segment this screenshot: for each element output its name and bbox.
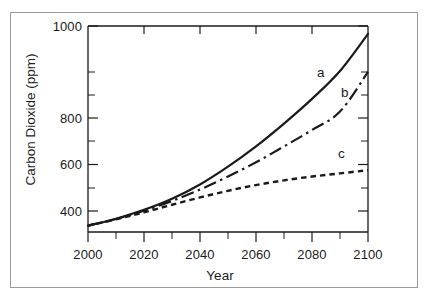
curve-b-label: b: [341, 85, 349, 100]
y-tick-label-1000: 1000: [42, 19, 82, 34]
curve-b-line: [88, 72, 368, 226]
x-axis-title: Year: [150, 268, 290, 283]
curve-a-line: [88, 34, 368, 226]
curve-a-label: a: [317, 65, 325, 80]
x-tick-label-2080: 2080: [290, 247, 334, 262]
x-tick-label-2000: 2000: [66, 247, 110, 262]
y-tick-label-800: 800: [42, 111, 82, 126]
x-tick-label-2060: 2060: [234, 247, 278, 262]
y-tick-label-400: 400: [42, 204, 82, 219]
y-axis-title: Carbon Dioxide (ppm): [23, 35, 38, 205]
x-axis-top-ticks: [144, 26, 312, 34]
y-tick-label-600: 600: [42, 157, 82, 172]
figure-container: 1000 800 600 400 2000 2020 2040 2060 208…: [0, 0, 430, 307]
x-tick-label-2100: 2100: [346, 247, 390, 262]
y-axis-right-ticks: [358, 26, 368, 211]
y-axis-ticks: [88, 26, 98, 211]
x-tick-label-2020: 2020: [122, 247, 166, 262]
axes-group: [88, 26, 368, 232]
curve-c-line: [88, 170, 368, 225]
x-axis-ticks: [88, 232, 368, 242]
curve-c-label: c: [338, 146, 345, 161]
x-tick-label-2040: 2040: [178, 247, 222, 262]
